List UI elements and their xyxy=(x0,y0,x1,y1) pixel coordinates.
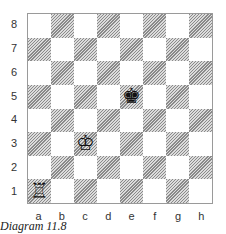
square-c4 xyxy=(74,109,97,133)
rank-label-5: 5 xyxy=(8,90,20,102)
square-d7 xyxy=(97,38,120,62)
square-a5 xyxy=(28,85,51,109)
square-a2 xyxy=(28,156,51,180)
square-c3: ♔ xyxy=(74,132,97,156)
square-e5: ♚ xyxy=(120,85,143,109)
square-h6 xyxy=(189,61,212,85)
file-label-c: c xyxy=(74,210,97,222)
square-g6 xyxy=(166,61,189,85)
rank-label-2: 2 xyxy=(8,161,20,173)
square-b5 xyxy=(51,85,74,109)
rank-label-8: 8 xyxy=(8,18,20,30)
square-a3 xyxy=(28,132,51,156)
square-e2 xyxy=(120,156,143,180)
file-label-f: f xyxy=(143,210,166,222)
square-e1 xyxy=(120,179,143,203)
square-g8 xyxy=(166,14,189,38)
white-rook-icon: ♖ xyxy=(30,181,49,202)
square-d4 xyxy=(97,109,120,133)
square-a7 xyxy=(28,38,51,62)
square-b1 xyxy=(51,179,74,203)
square-d3 xyxy=(97,132,120,156)
rank-label-3: 3 xyxy=(8,137,20,149)
square-h3 xyxy=(189,132,212,156)
rank-label-1: 1 xyxy=(8,185,20,197)
square-b4 xyxy=(51,109,74,133)
black-king-icon: ♚ xyxy=(122,86,141,107)
square-d5 xyxy=(97,85,120,109)
square-f1 xyxy=(143,179,166,203)
square-a4 xyxy=(28,109,51,133)
rank-label-7: 7 xyxy=(8,42,20,54)
square-c6 xyxy=(74,61,97,85)
square-f4 xyxy=(143,109,166,133)
square-c7 xyxy=(74,38,97,62)
square-e8 xyxy=(120,14,143,38)
square-f6 xyxy=(143,61,166,85)
white-king-icon: ♔ xyxy=(76,133,95,154)
square-d8 xyxy=(97,14,120,38)
square-d1 xyxy=(97,179,120,203)
square-e3 xyxy=(120,132,143,156)
file-label-g: g xyxy=(167,210,190,222)
square-e4 xyxy=(120,109,143,133)
file-label-h: h xyxy=(190,210,213,222)
square-g1 xyxy=(166,179,189,203)
rank-label-4: 4 xyxy=(8,113,20,125)
square-b8 xyxy=(51,14,74,38)
square-h7 xyxy=(189,38,212,62)
square-f5 xyxy=(143,85,166,109)
square-d2 xyxy=(97,156,120,180)
file-label-e: e xyxy=(120,210,143,222)
square-a8 xyxy=(28,14,51,38)
square-f2 xyxy=(143,156,166,180)
square-h4 xyxy=(189,109,212,133)
square-g5 xyxy=(166,85,189,109)
square-h1 xyxy=(189,179,212,203)
square-g3 xyxy=(166,132,189,156)
square-c2 xyxy=(74,156,97,180)
square-c5 xyxy=(74,85,97,109)
square-f8 xyxy=(143,14,166,38)
square-c1 xyxy=(74,179,97,203)
square-g2 xyxy=(166,156,189,180)
diagram-caption: Diagram 11.8 xyxy=(0,219,66,234)
square-e6 xyxy=(120,61,143,85)
square-a1: ♖ xyxy=(28,179,51,203)
square-h2 xyxy=(189,156,212,180)
square-h8 xyxy=(189,14,212,38)
square-c8 xyxy=(74,14,97,38)
square-f3 xyxy=(143,132,166,156)
chess-board: ♚♔♖ xyxy=(27,13,213,204)
square-h5 xyxy=(189,85,212,109)
square-g7 xyxy=(166,38,189,62)
rank-label-6: 6 xyxy=(8,66,20,78)
square-a6 xyxy=(28,61,51,85)
square-d6 xyxy=(97,61,120,85)
square-b2 xyxy=(51,156,74,180)
square-b7 xyxy=(51,38,74,62)
square-e7 xyxy=(120,38,143,62)
file-label-d: d xyxy=(97,210,120,222)
square-g4 xyxy=(166,109,189,133)
square-f7 xyxy=(143,38,166,62)
square-b6 xyxy=(51,61,74,85)
square-b3 xyxy=(51,132,74,156)
